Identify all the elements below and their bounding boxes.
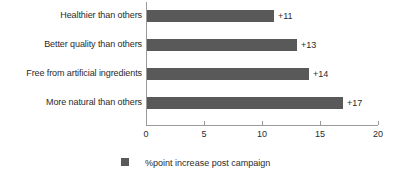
category-label-2: Free from artificial ingredients xyxy=(9,67,142,78)
category-label-1: Better quality than others xyxy=(9,38,142,49)
category-axis-labels: Healthier than others Better quality tha… xyxy=(0,0,142,126)
bar-chart: Healthier than others Better quality tha… xyxy=(0,0,395,175)
plot-area: +11 +13 +14 +17 xyxy=(147,0,378,126)
legend-swatch-icon xyxy=(121,158,129,166)
category-label-0: Healthier than others xyxy=(9,9,142,20)
bar-1 xyxy=(147,39,297,51)
bar-value-0: +11 xyxy=(278,10,293,22)
chart-legend: %point increase post campaign xyxy=(0,152,395,172)
x-axis-tick-label-1: 5 xyxy=(193,128,216,139)
bar-3 xyxy=(147,97,343,109)
legend-label-0: %point increase post campaign xyxy=(145,157,270,168)
bar-value-1: +13 xyxy=(301,39,316,51)
bar-value-2: +14 xyxy=(313,68,328,80)
bar-0 xyxy=(147,10,274,22)
x-axis-tick-label-2: 10 xyxy=(251,128,274,139)
x-axis-tick-label-4: 20 xyxy=(367,128,390,139)
x-axis-tick-label-3: 15 xyxy=(309,128,332,139)
bar-2 xyxy=(147,68,309,80)
bar-value-3: +17 xyxy=(347,97,362,109)
category-label-3: More natural than others xyxy=(9,96,142,107)
x-axis-tick-label-0: 0 xyxy=(135,128,158,139)
x-axis-tick-4 xyxy=(378,121,379,125)
